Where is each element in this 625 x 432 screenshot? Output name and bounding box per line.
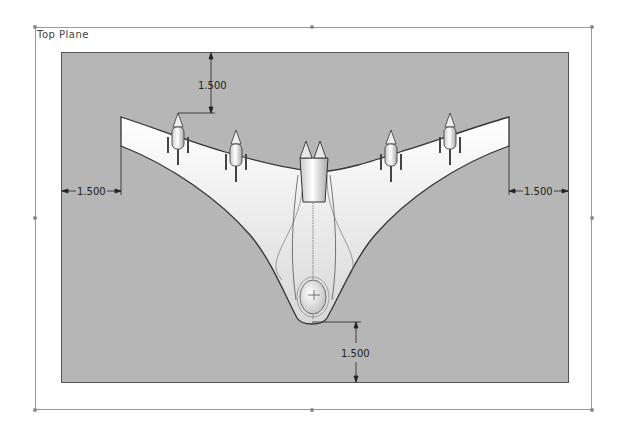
flying-wing-drawing: 1.500 1.500 1.500 1.500 [0, 0, 625, 432]
dimension-left-value[interactable]: 1.500 [77, 186, 106, 197]
dimension-right-value[interactable]: 1.500 [524, 186, 553, 197]
center-tail[interactable] [300, 141, 328, 202]
dimension-bottom-value[interactable]: 1.500 [341, 348, 370, 359]
dimension-top-value[interactable]: 1.500 [198, 80, 227, 91]
